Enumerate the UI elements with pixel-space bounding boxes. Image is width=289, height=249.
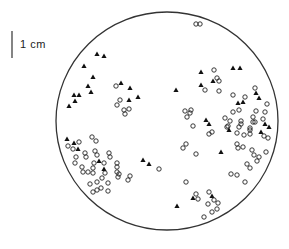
circle-marker: [184, 142, 188, 146]
circle-marker: [235, 131, 239, 135]
circle-marker: [231, 93, 235, 97]
triangle-marker: [64, 136, 69, 141]
circle-marker: [252, 153, 256, 157]
circle-marker: [91, 166, 95, 170]
triangle-marker: [96, 158, 101, 163]
circle-marker: [94, 139, 98, 143]
triangle-marker: [71, 92, 76, 97]
circle-marker: [210, 210, 214, 214]
triangle-marker: [262, 121, 267, 126]
circle-marker: [236, 146, 240, 150]
triangle-marker: [240, 99, 245, 104]
petri-dish-outline: [56, 12, 278, 230]
circle-marker: [216, 201, 220, 205]
circle-markers: [66, 22, 270, 219]
circle-marker: [223, 116, 227, 120]
circle-marker: [264, 150, 268, 154]
triangle-marker: [88, 89, 93, 94]
circle-marker: [194, 152, 198, 156]
triangle-marker: [146, 161, 151, 166]
circle-marker: [206, 202, 210, 206]
circle-marker: [184, 180, 188, 184]
circle-marker: [81, 170, 85, 174]
triangle-marker: [71, 140, 76, 145]
triangle-marker: [256, 95, 261, 100]
circle-marker: [191, 124, 195, 128]
circle-marker: [127, 107, 131, 111]
circle-marker: [266, 136, 270, 140]
triangle-marker: [218, 149, 223, 154]
circle-marker: [250, 148, 254, 152]
circle-marker: [91, 171, 95, 175]
circle-marker: [100, 176, 104, 180]
circle-marker: [102, 161, 106, 165]
scale-bar-label: 1 cm: [20, 38, 46, 50]
triangle-marker: [101, 53, 106, 58]
circle-marker: [261, 117, 265, 121]
triangle-marker: [235, 100, 240, 105]
triangle-marker: [198, 69, 203, 74]
circle-marker: [251, 115, 255, 119]
circle-marker: [126, 178, 130, 182]
circle-marker: [66, 144, 70, 148]
triangle-marker: [230, 65, 235, 70]
circle-marker: [181, 146, 185, 150]
circle-marker: [157, 167, 161, 171]
circle-marker: [115, 103, 119, 107]
circle-marker: [237, 108, 241, 112]
circle-marker: [253, 86, 257, 90]
circle-marker: [228, 119, 232, 123]
circle-marker: [88, 182, 92, 186]
circle-marker: [71, 147, 75, 151]
circle-marker: [183, 109, 187, 113]
triangle-marker: [76, 92, 81, 97]
circle-marker: [235, 173, 239, 177]
circle-marker: [95, 180, 99, 184]
circle-marker: [185, 115, 189, 119]
triangle-marker: [258, 129, 263, 134]
circle-marker: [254, 109, 258, 113]
circle-marker: [243, 180, 247, 184]
circle-marker: [106, 189, 110, 193]
triangle-marker: [72, 98, 77, 103]
triangle-marker: [206, 121, 211, 126]
circle-marker: [90, 135, 94, 139]
circle-marker: [86, 170, 90, 174]
triangle-marker: [126, 97, 131, 102]
triangle-marker: [85, 83, 90, 88]
triangle-marker: [237, 65, 242, 70]
triangle-marker: [94, 51, 99, 56]
circle-marker: [212, 68, 216, 72]
circle-marker: [265, 102, 269, 106]
circle-marker: [242, 133, 246, 137]
circle-marker: [77, 140, 81, 144]
circle-marker: [95, 153, 99, 157]
circle-marker: [229, 172, 233, 176]
triangle-marker: [198, 82, 203, 87]
circle-marker: [231, 110, 235, 114]
triangle-markers: [64, 51, 271, 208]
circle-marker: [92, 161, 96, 165]
circle-marker: [207, 190, 211, 194]
triangle-marker: [75, 146, 80, 151]
triangle-marker: [101, 166, 106, 171]
triangle-marker: [174, 203, 179, 208]
triangle-marker: [266, 124, 271, 129]
circle-marker: [226, 124, 230, 128]
triangle-marker: [127, 85, 132, 90]
circle-marker: [243, 95, 247, 99]
triangle-marker: [140, 157, 145, 162]
circle-marker: [248, 166, 252, 170]
triangle-marker: [173, 87, 178, 92]
circle-marker: [217, 89, 221, 93]
circle-marker: [241, 145, 245, 149]
circle-marker: [194, 192, 198, 196]
triangle-marker: [135, 94, 140, 99]
triangle-marker: [90, 74, 95, 79]
triangle-marker: [66, 103, 71, 108]
circle-marker: [114, 84, 118, 88]
triangle-marker: [203, 117, 208, 122]
triangle-marker: [253, 90, 258, 95]
circle-marker: [73, 161, 77, 165]
circle-marker: [91, 190, 95, 194]
